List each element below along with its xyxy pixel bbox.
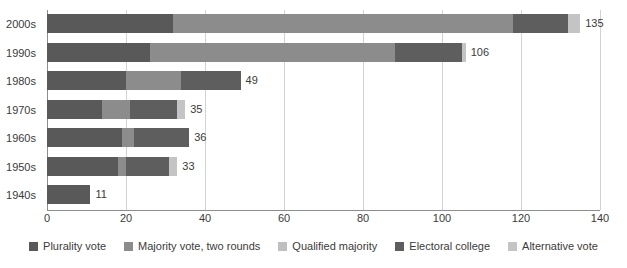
legend-swatch-icon bbox=[278, 242, 287, 251]
bar-row[interactable]: 35 bbox=[47, 96, 600, 124]
x-tick-label: 60 bbox=[278, 212, 290, 224]
x-tick-label: 140 bbox=[591, 212, 609, 224]
x-tick-label: 100 bbox=[433, 212, 451, 224]
bar-segment-majority-vote-two-rounds[interactable] bbox=[118, 157, 126, 176]
bar-segment-electoral-college[interactable] bbox=[130, 100, 177, 119]
bar-segment-electoral-college[interactable] bbox=[181, 71, 240, 90]
legend-item-qualified-majority[interactable]: Qualified majority bbox=[278, 241, 377, 252]
legend-item-electoral-college[interactable]: Electoral college bbox=[395, 241, 490, 252]
bar-segment-alternative-vote[interactable] bbox=[568, 14, 580, 33]
bar-segment-plurality-vote[interactable] bbox=[47, 43, 150, 62]
category-label-1940s: 1940s bbox=[0, 181, 42, 209]
legend-label: Plurality vote bbox=[43, 241, 106, 252]
bar-segment-electoral-college[interactable] bbox=[134, 128, 189, 147]
bar-segment-electoral-college[interactable] bbox=[395, 43, 462, 62]
bar-segment-majority-vote-two-rounds[interactable] bbox=[126, 71, 181, 90]
stacked-bar[interactable] bbox=[47, 185, 90, 204]
stacked-bar[interactable] bbox=[47, 128, 189, 147]
stacked-bar[interactable] bbox=[47, 71, 241, 90]
chart-container: 2000s1990s1980s1970s1960s1950s1940s 1351… bbox=[0, 0, 627, 268]
x-tick-label: 20 bbox=[120, 212, 132, 224]
x-tick-label: 120 bbox=[512, 212, 530, 224]
bar-segment-plurality-vote[interactable] bbox=[47, 157, 118, 176]
bar-segment-plurality-vote[interactable] bbox=[47, 128, 122, 147]
bar-row[interactable]: 36 bbox=[47, 124, 600, 152]
stacked-bar[interactable] bbox=[47, 100, 185, 119]
stacked-bar[interactable] bbox=[47, 157, 177, 176]
legend-item-plurality-vote[interactable]: Plurality vote bbox=[29, 241, 106, 252]
legend-label: Majority vote, two rounds bbox=[138, 241, 260, 252]
bar-row[interactable]: 33 bbox=[47, 153, 600, 181]
bar-segment-plurality-vote[interactable] bbox=[47, 185, 90, 204]
x-tick-label: 0 bbox=[44, 212, 50, 224]
category-label-1960s: 1960s bbox=[0, 124, 42, 152]
bar-segment-plurality-vote[interactable] bbox=[47, 14, 173, 33]
bar-total-label: 11 bbox=[90, 185, 106, 204]
x-axis-ticks: 020406080100120140 bbox=[47, 212, 600, 228]
bar-segment-majority-vote-two-rounds[interactable] bbox=[150, 43, 395, 62]
bar-segment-alternative-vote[interactable] bbox=[169, 157, 177, 176]
category-label-1980s: 1980s bbox=[0, 67, 42, 95]
bar-total-label: 49 bbox=[241, 71, 258, 90]
legend-swatch-icon bbox=[508, 242, 517, 251]
bar-segment-majority-vote-two-rounds[interactable] bbox=[122, 128, 134, 147]
x-tick-label: 80 bbox=[357, 212, 369, 224]
legend-swatch-icon bbox=[124, 242, 133, 251]
plot-area: 1351064935363311 bbox=[47, 10, 600, 210]
bar-row[interactable]: 135 bbox=[47, 10, 600, 38]
chart-legend: Plurality voteMajority vote, two roundsQ… bbox=[0, 236, 627, 256]
category-label-2000s: 2000s bbox=[0, 10, 42, 38]
legend-item-majority-vote-two-rounds[interactable]: Majority vote, two rounds bbox=[124, 241, 260, 252]
bar-segment-majority-vote-two-rounds[interactable] bbox=[173, 14, 513, 33]
bar-row[interactable]: 49 bbox=[47, 67, 600, 95]
x-axis-line bbox=[47, 210, 600, 211]
bar-segment-plurality-vote[interactable] bbox=[47, 100, 102, 119]
category-axis: 2000s1990s1980s1970s1960s1950s1940s bbox=[0, 10, 42, 210]
legend-swatch-icon bbox=[29, 242, 38, 251]
bar-total-label: 33 bbox=[177, 157, 194, 176]
bar-series-group: 1351064935363311 bbox=[47, 10, 600, 210]
legend-label: Electoral college bbox=[409, 241, 490, 252]
category-label-1990s: 1990s bbox=[0, 39, 42, 67]
stacked-bar[interactable] bbox=[47, 14, 580, 33]
bar-total-label: 135 bbox=[580, 14, 603, 33]
bar-total-label: 35 bbox=[185, 100, 202, 119]
gridline-140 bbox=[600, 10, 601, 210]
category-label-1970s: 1970s bbox=[0, 96, 42, 124]
legend-swatch-icon bbox=[395, 242, 404, 251]
bar-segment-electoral-college[interactable] bbox=[126, 157, 169, 176]
bar-total-label: 36 bbox=[189, 128, 206, 147]
bar-row[interactable]: 11 bbox=[47, 181, 600, 209]
bar-row[interactable]: 106 bbox=[47, 39, 600, 67]
bar-segment-majority-vote-two-rounds[interactable] bbox=[102, 100, 130, 119]
bar-segment-plurality-vote[interactable] bbox=[47, 71, 126, 90]
stacked-bar[interactable] bbox=[47, 43, 466, 62]
bar-segment-alternative-vote[interactable] bbox=[177, 100, 185, 119]
category-label-1950s: 1950s bbox=[0, 153, 42, 181]
bar-segment-electoral-college[interactable] bbox=[513, 14, 568, 33]
legend-label: Alternative vote bbox=[522, 241, 598, 252]
legend-item-alternative-vote[interactable]: Alternative vote bbox=[508, 241, 598, 252]
legend-label: Qualified majority bbox=[292, 241, 377, 252]
x-tick-label: 40 bbox=[199, 212, 211, 224]
bar-total-label: 106 bbox=[466, 43, 489, 62]
